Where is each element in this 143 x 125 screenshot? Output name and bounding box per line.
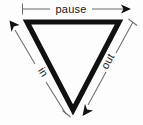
out-arrow: out: [83, 19, 138, 116]
diagram-canvas: pause in out: [0, 0, 143, 125]
pause-label: pause: [56, 3, 87, 15]
in-arrow-start-tick: [63, 111, 71, 118]
in-arrow: in: [10, 21, 71, 118]
in-arrow-head-icon: [10, 21, 20, 33]
pause-arrow: pause: [23, 3, 132, 15]
breathing-triangle-diagram: pause in out: [0, 0, 143, 125]
out-arrow-head-icon: [83, 104, 94, 116]
